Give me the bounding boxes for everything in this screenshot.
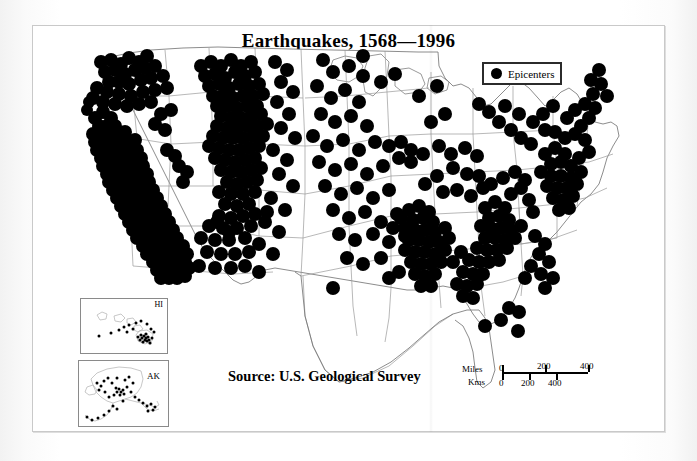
scale-label-miles-200: 200 xyxy=(537,361,551,371)
scale-label-kms-400: 400 xyxy=(548,378,562,388)
source-attribution: Source: U.S. Geological Survey xyxy=(228,368,421,385)
scale-label-miles-0: 0 xyxy=(499,363,504,373)
scale-label-kms-200: 200 xyxy=(521,378,535,388)
hawaii-epicenter-points xyxy=(98,320,156,345)
scale-bar-line xyxy=(502,372,588,374)
scan-seam-artifact xyxy=(429,25,433,432)
hawaii-inset-map xyxy=(81,299,165,351)
alaska-inset: AK xyxy=(78,360,169,427)
hawaii-inset-label: HI xyxy=(155,300,163,309)
map-legend: Epicenters xyxy=(482,62,562,85)
scale-miles-unit: Miles xyxy=(462,364,483,374)
scale-label-kms-0: 0 xyxy=(499,378,504,388)
epicenter-point-florida xyxy=(511,324,525,338)
map-document: Earthquakes, 1568—1996 xyxy=(0,0,697,461)
alaska-inset-label: AK xyxy=(147,371,160,381)
filled-circle-icon xyxy=(491,68,502,79)
scale-kms-unit: Kms xyxy=(468,377,485,387)
legend-label: Epicenters xyxy=(508,68,554,80)
alaska-epicenter-points xyxy=(86,376,157,422)
scale-label-miles-400: 400 xyxy=(580,361,594,371)
scale-bar: Miles Kms 0 200 400 0 200 400 xyxy=(462,358,602,392)
hawaii-inset: HI xyxy=(80,298,168,354)
